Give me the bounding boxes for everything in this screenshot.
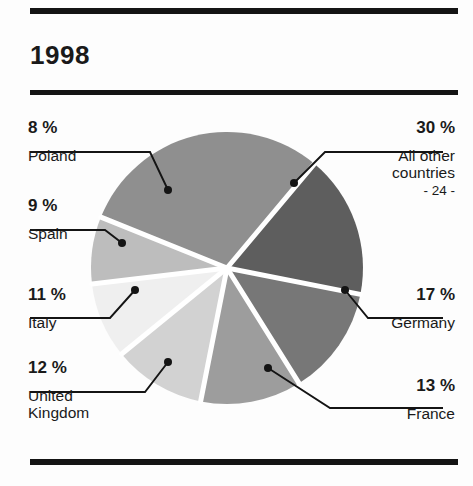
callout-united-kingdom-name-line2: Kingdom	[28, 404, 89, 421]
callout-united-kingdom: 12 % United Kingdom	[28, 358, 89, 422]
callout-france-name: France	[407, 405, 455, 422]
callout-spain-name: Spain	[28, 225, 68, 242]
leader-dot-all-other-countries	[290, 179, 298, 187]
callout-france-percent: 13 %	[407, 376, 455, 395]
callout-poland-name: Poland	[28, 147, 76, 164]
callout-italy-percent: 11 %	[28, 285, 66, 304]
callout-poland: 8 % Poland	[28, 118, 76, 164]
bottom-divider-rule	[30, 459, 458, 465]
page-marker: - 24 -	[392, 183, 455, 198]
leader-dot-poland	[164, 186, 172, 194]
callout-all-other-countries: 30 % All other countries - 24 -	[392, 118, 455, 198]
leader-dot-france	[264, 364, 272, 372]
callout-spain-percent: 9 %	[28, 196, 68, 215]
callout-poland-percent: 8 %	[28, 118, 76, 137]
leader-dot-germany	[341, 286, 349, 294]
report-page: 1998	[0, 0, 473, 486]
callout-italy-name: Italy	[28, 314, 66, 331]
callout-france: 13 % France	[407, 376, 455, 422]
pie-slices	[91, 132, 363, 404]
leader-dot-spain	[118, 239, 126, 247]
callout-all-other-countries-percent: 30 %	[392, 118, 455, 137]
callout-italy: 11 % Italy	[28, 285, 66, 331]
callout-united-kingdom-name-line1: United	[28, 387, 89, 404]
callout-all-other-countries-name-line1: All other	[392, 147, 455, 164]
leader-dot-italy	[131, 286, 139, 294]
callout-spain: 9 % Spain	[28, 196, 68, 242]
callout-all-other-countries-name-line2: countries	[392, 164, 455, 181]
leader-dot-uk	[164, 358, 172, 366]
callout-germany-name: Germany	[391, 314, 455, 331]
callout-united-kingdom-percent: 12 %	[28, 358, 89, 377]
callout-germany-percent: 17 %	[391, 285, 455, 304]
callout-germany: 17 % Germany	[391, 285, 455, 331]
